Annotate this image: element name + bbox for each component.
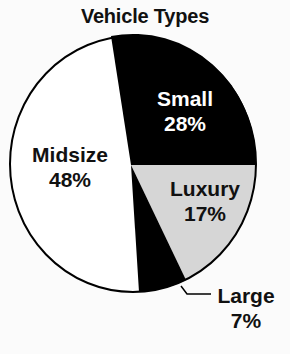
- label-luxury-pct: 17%: [157, 201, 253, 226]
- large-leader-line: [181, 286, 211, 294]
- label-large: Large 7%: [210, 283, 282, 333]
- label-small-name: Small: [140, 86, 230, 111]
- label-small-pct: 28%: [140, 111, 230, 136]
- label-midsize-pct: 48%: [18, 167, 122, 192]
- label-midsize-name: Midsize: [18, 142, 122, 167]
- label-large-name: Large: [210, 283, 282, 308]
- label-small: Small 28%: [140, 86, 230, 136]
- label-midsize: Midsize 48%: [18, 142, 122, 192]
- label-luxury: Luxury 17%: [157, 176, 253, 226]
- label-luxury-name: Luxury: [157, 176, 253, 201]
- label-large-pct: 7%: [210, 308, 282, 333]
